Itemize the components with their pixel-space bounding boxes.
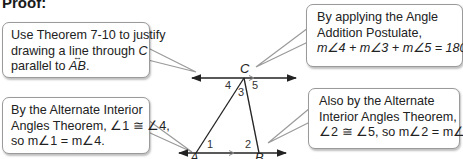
callout-alt-interior-1: By the Alternate Interior Angles Theorem… bbox=[2, 97, 150, 154]
callout-line: By the Alternate Interior bbox=[11, 103, 141, 119]
callout-angle-addition: By applying the Angle Addition Postulate… bbox=[306, 4, 463, 67]
angle-4-label: 4 bbox=[225, 79, 231, 91]
side-ac bbox=[196, 78, 244, 153]
callout-line: Also by the Alternate bbox=[319, 94, 451, 110]
callout-line: parallel to AB. bbox=[11, 59, 141, 75]
callout-line: Use Theorem 7-10 to justify bbox=[11, 28, 141, 44]
callout-line: Angles Theorem, ∠1 ≅ ∠4, bbox=[11, 119, 141, 135]
callout-line: Interior Angles Theorem, bbox=[319, 110, 451, 126]
callout-line: ∠2 ≅ ∠5, so m∠2 = m∠5. bbox=[319, 125, 451, 141]
angle-5-label: 5 bbox=[252, 79, 258, 91]
callout-line: so m∠1 = m∠4. bbox=[11, 134, 141, 150]
point-b-label: B bbox=[255, 150, 264, 159]
point-a-label: A bbox=[190, 150, 199, 159]
line-ab-notation: AB bbox=[69, 59, 86, 73]
callout-line: By applying the Angle bbox=[317, 10, 454, 26]
callout-alt-interior-2: Also by the Alternate Interior Angles Th… bbox=[308, 88, 460, 149]
angle-2-label: 2 bbox=[245, 138, 251, 150]
callout-theorem-7-10: Use Theorem 7-10 to justify drawing a li… bbox=[2, 22, 150, 78]
point-c-label: C bbox=[240, 61, 249, 76]
callout-line: m∠4 + m∠3 + m∠5 = 180°. bbox=[317, 41, 454, 57]
angle-1-label: 1 bbox=[207, 138, 213, 150]
angle-3-label: 3 bbox=[238, 86, 244, 98]
callout-line: Addition Postulate, bbox=[317, 26, 454, 42]
